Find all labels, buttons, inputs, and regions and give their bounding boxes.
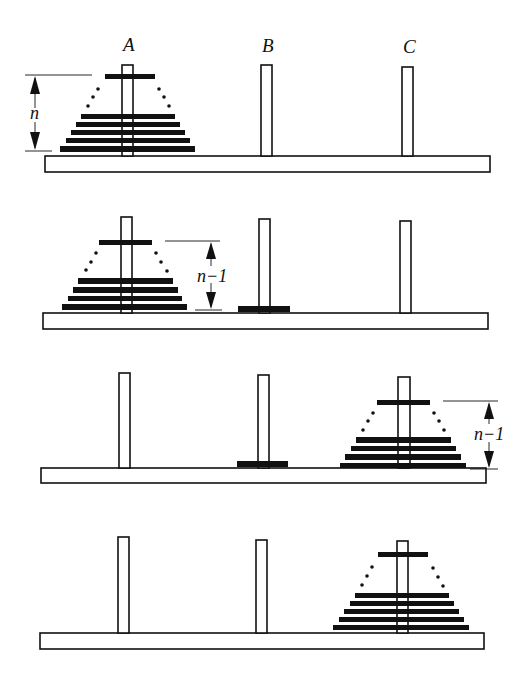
largest-disk-b — [238, 306, 290, 312]
height-label-n: n — [30, 104, 39, 122]
base-board — [40, 633, 484, 649]
peg-label-a: A — [123, 35, 135, 54]
hanoi-diagram — [0, 0, 529, 688]
peg-b — [258, 375, 269, 468]
peg-b — [256, 540, 267, 633]
peg-label-c: C — [403, 37, 416, 56]
height-label-n-minus-1: n−1 — [474, 425, 504, 443]
peg-label-b: B — [262, 36, 274, 55]
peg-b — [261, 65, 272, 156]
height-label-n-minus-1: n−1 — [197, 267, 227, 285]
peg-c — [402, 67, 413, 156]
peg-a — [118, 537, 129, 633]
panel-2 — [43, 217, 488, 329]
base-board — [45, 156, 490, 172]
peg-b — [259, 219, 270, 313]
base-board — [43, 313, 488, 329]
base-board — [41, 468, 486, 483]
peg-c — [400, 221, 411, 313]
largest-disk-b — [237, 461, 288, 467]
peg-a — [119, 373, 130, 468]
